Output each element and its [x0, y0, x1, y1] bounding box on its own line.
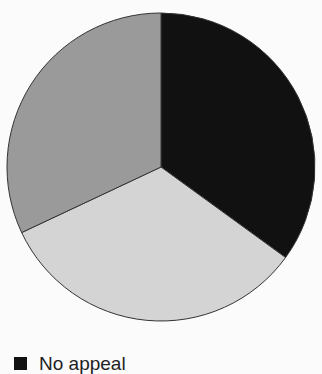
- legend: No appeal: [14, 354, 126, 373]
- legend-swatch-no-appeal: [14, 357, 27, 370]
- pie-chart: [0, 0, 322, 340]
- legend-label-no-appeal: No appeal: [39, 354, 126, 373]
